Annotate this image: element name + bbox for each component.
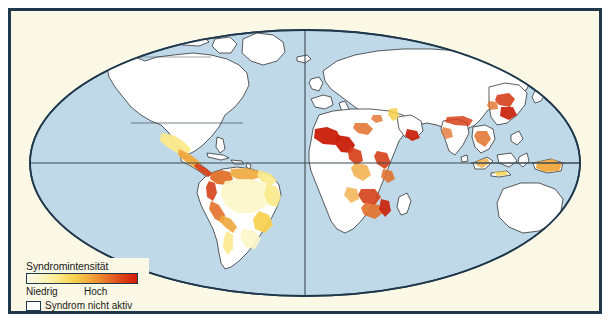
land-tasmania	[539, 235, 549, 243]
legend-color-ramp	[26, 273, 138, 284]
legend-inactive-entry: Syndrom nicht aktiv	[26, 300, 146, 312]
legend-title: Syndromintensität	[26, 260, 146, 272]
map-legend: Syndromintensität Niedrig Hoch Syndrom n…	[23, 258, 149, 314]
legend-high-label: Hoch	[84, 285, 107, 298]
legend-low-label: Niedrig	[26, 285, 58, 298]
land-new-zealand	[573, 213, 585, 229]
legend-inactive-label: Syndrom nicht aktiv	[45, 300, 132, 312]
legend-inactive-swatch	[26, 301, 41, 311]
land-kamchatka	[533, 55, 555, 77]
map-frame: Syndromintensität Niedrig Hoch Syndrom n…	[8, 8, 602, 314]
legend-scale-labels: Niedrig Hoch	[26, 285, 138, 299]
figure-container: Syndromintensität Niedrig Hoch Syndrom n…	[0, 0, 614, 335]
